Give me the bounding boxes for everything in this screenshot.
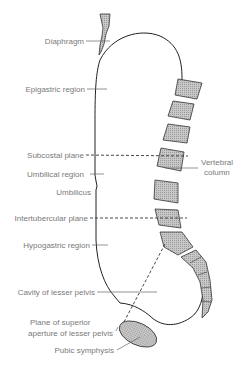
label-vertebral-column-2: column: [204, 168, 230, 177]
diaphragm-shape: [99, 14, 110, 55]
label-vertebral-column-1: Vertebral: [201, 158, 233, 167]
label-plane-superior-aperture-2: aperture of lesser pelvis: [28, 329, 113, 338]
superior-aperture-plane-line: [124, 244, 165, 322]
label-umbilical-region: Umbilical region: [27, 170, 84, 179]
label-plane-superior-aperture-1: Plane of superior: [30, 318, 91, 327]
label-umbilicus: Umbilicus: [56, 188, 91, 197]
label-subcostal-plane: Subcostal plane: [27, 151, 84, 160]
abdominal-wall-outline: [95, 33, 203, 325]
label-epigastric-region: Epigastric region: [25, 85, 85, 94]
label-cavity-lesser-pelvis: Cavity of lesser pelvis: [18, 288, 95, 297]
abdomen-sagittal-diagram: Diaphragm Epigastric region Subcostal pl…: [0, 0, 245, 366]
label-diaphragm: Diaphragm: [45, 37, 84, 46]
label-intertubercular-plane: Intertubercular plane: [15, 214, 89, 223]
label-hypogastric-region: Hypogastric region: [23, 241, 90, 250]
vertebral-column: [154, 79, 212, 318]
label-pubic-symphysis: Pubic symphysis: [54, 346, 114, 355]
